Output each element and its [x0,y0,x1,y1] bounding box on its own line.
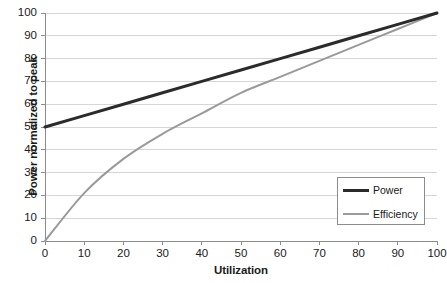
legend-label-power: Power [373,185,403,196]
x-tick-label: 20 [103,248,143,259]
x-tick-label: 10 [64,248,104,259]
x-axis-tick-labels: 0102030405060708090100 [0,0,447,283]
x-tick-label: 90 [378,248,418,259]
legend-swatch-efficiency-icon [343,213,369,215]
legend-item-efficiency: Efficiency [338,202,426,226]
x-tick-label: 40 [182,248,222,259]
x-tick-label: 30 [143,248,183,259]
legend-item-power: Power [338,178,426,202]
legend-swatch-power-icon [343,189,369,192]
chart-container: 0102030405060708090100 01020304050607080… [0,0,447,283]
x-tick-label: 100 [417,248,447,259]
x-axis-title: Utilization [45,264,437,276]
y-axis-title: Power normalized to peak [27,31,39,221]
x-tick-label: 70 [299,248,339,259]
x-tick-label: 80 [339,248,379,259]
chart-legend: Power Efficiency [337,177,425,225]
x-tick-label: 50 [221,248,261,259]
x-tick-label: 0 [25,248,65,259]
legend-label-efficiency: Efficiency [373,209,418,220]
x-tick-label: 60 [260,248,300,259]
